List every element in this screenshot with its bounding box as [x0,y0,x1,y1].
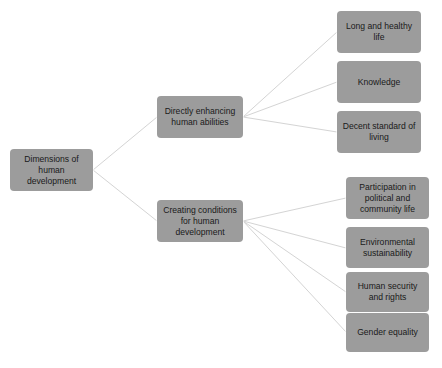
leaf-node-label: Environmental sustainability [350,237,425,259]
leaf-node-gender-equality: Gender equality [346,313,429,352]
connector-branch-2-to-leaf-5 [243,221,346,248]
connector-branch-1-to-leaf-1 [243,32,337,117]
connector-branch-1-to-leaf-2 [243,82,337,117]
leaf-node-long-healthy-life: Long and healthy life [337,11,421,53]
leaf-node-label: Gender equality [357,327,418,338]
connector-branch-2-to-leaf-4 [243,198,346,221]
root-node-label: Dimensions of human development [14,154,89,187]
connector-branch-2-to-leaf-6 [243,221,346,292]
branch-node-label: Directly enhancing human abilities [161,106,239,128]
leaf-node-label: Long and healthy life [341,21,417,43]
leaf-node-label: Knowledge [358,77,401,88]
leaf-node-participation: Participation in political and community… [346,177,429,219]
branch-node-directly-enhancing: Directly enhancing human abilities [157,96,243,138]
leaf-node-decent-standard-of-living: Decent standard of living [337,111,421,153]
leaf-node-environmental-sustainability: Environmental sustainability [346,227,429,268]
leaf-node-label: Human security and rights [350,281,425,303]
root-node: Dimensions of human development [10,149,93,191]
branch-node-label: Creating conditions for human developmen… [161,205,239,238]
branch-node-creating-conditions: Creating conditions for human developmen… [157,200,243,242]
leaf-node-knowledge: Knowledge [337,61,421,103]
connector-branch-1-to-leaf-3 [243,117,337,132]
leaf-node-label: Decent standard of living [341,121,417,143]
connector-root-to-branch-2 [93,170,157,221]
leaf-node-label: Participation in political and community… [350,182,425,215]
connector-root-to-branch-1 [93,117,157,170]
leaf-node-human-security: Human security and rights [346,272,429,312]
connector-branch-2-to-leaf-7 [243,221,346,332]
